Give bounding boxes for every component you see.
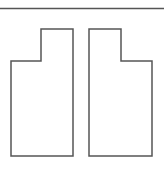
diagram-canvas bbox=[0, 0, 164, 184]
left-stepped-shape bbox=[11, 29, 73, 156]
right-stepped-shape bbox=[89, 29, 152, 156]
